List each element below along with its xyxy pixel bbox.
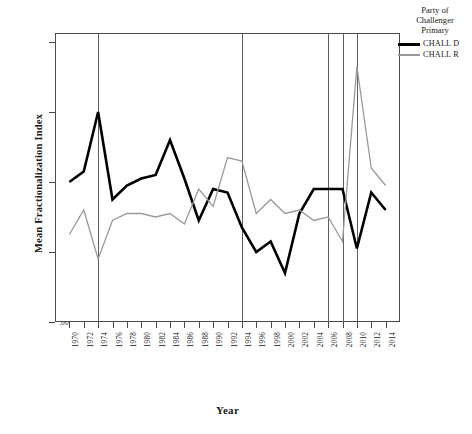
figure: Mean Fractionalization Index .00.10.20.3…: [0, 0, 472, 434]
legend-item-chall-d[interactable]: CHALL D: [398, 39, 472, 49]
x-tick-mark: [285, 322, 286, 328]
x-tick-mark: [213, 322, 214, 328]
x-tick-mark: [299, 322, 300, 328]
legend-title: Party of Challenger Primary: [398, 5, 472, 35]
x-tick-label: 1992: [231, 332, 239, 347]
x-tick-label: 2014: [389, 332, 397, 347]
series-layer: [0, 0, 472, 434]
x-tick-mark: [98, 322, 99, 328]
x-tick-label: 1994: [245, 332, 253, 347]
legend-title-line-3: Primary: [398, 25, 472, 35]
x-tick-mark: [386, 322, 387, 328]
series-line-chall-d: [69, 112, 385, 273]
legend: Party of Challenger Primary CHALL D CHAL…: [398, 5, 472, 60]
x-tick-mark: [184, 322, 185, 328]
legend-item-chall-r[interactable]: CHALL R: [398, 50, 472, 60]
x-tick-label: 1980: [144, 332, 152, 347]
x-tick-mark: [69, 322, 70, 328]
x-tick-label: 1990: [216, 332, 224, 347]
legend-swatch-chall-r: [398, 54, 420, 55]
x-tick-label: 1998: [274, 332, 282, 347]
x-tick-label: 2008: [346, 332, 354, 347]
x-tick-mark: [271, 322, 272, 328]
x-tick-label: 1996: [259, 332, 267, 347]
legend-title-line-1: Party of: [398, 5, 472, 15]
x-tick-label: 2006: [331, 332, 339, 347]
x-tick-label: 2012: [374, 332, 382, 347]
x-tick-mark: [242, 322, 243, 328]
x-tick-mark: [170, 322, 171, 328]
x-tick-label: 1972: [87, 332, 95, 347]
x-tick-label: 1974: [101, 332, 109, 347]
x-tick-label: 1976: [116, 332, 124, 347]
x-tick-label: 2010: [360, 332, 368, 347]
x-tick-label: 2004: [317, 332, 325, 347]
x-tick-label: 1986: [187, 332, 195, 347]
x-tick-mark: [156, 322, 157, 328]
x-tick-mark: [314, 322, 315, 328]
legend-label-chall-r: CHALL R: [423, 50, 459, 60]
x-tick-mark: [141, 322, 142, 328]
x-axis-title: Year: [0, 404, 455, 416]
x-tick-label: 1988: [202, 332, 210, 347]
x-tick-mark: [84, 322, 85, 328]
legend-title-line-2: Challenger: [398, 15, 472, 25]
x-tick-mark: [256, 322, 257, 328]
x-tick-mark: [113, 322, 114, 328]
x-tick-label: 2002: [302, 332, 310, 347]
x-tick-mark: [199, 322, 200, 328]
x-tick-mark: [127, 322, 128, 328]
x-tick-label: 1982: [159, 332, 167, 347]
x-tick-mark: [343, 322, 344, 328]
series-line-chall-r: [69, 67, 385, 260]
x-tick-mark: [357, 322, 358, 328]
x-tick-mark: [228, 322, 229, 328]
x-tick-label: 2000: [288, 332, 296, 347]
x-tick-label: 1984: [173, 332, 181, 347]
x-tick-label: 1978: [130, 332, 138, 347]
x-tick-mark: [328, 322, 329, 328]
x-tick-mark: [371, 322, 372, 328]
legend-label-chall-d: CHALL D: [423, 39, 459, 49]
x-tick-label: 1970: [72, 332, 80, 347]
legend-swatch-chall-d: [398, 43, 420, 46]
